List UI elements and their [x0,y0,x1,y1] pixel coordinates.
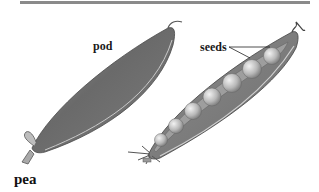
seeds-label: seeds [200,41,227,53]
seed [243,60,262,79]
seed [223,74,242,93]
seed [155,134,168,147]
figure-caption: pea [14,172,37,187]
seed [185,103,202,120]
pea-illustration [0,0,319,192]
pod-label: pod [93,40,112,52]
seed [264,48,281,65]
seed [203,88,221,106]
seed [169,119,184,134]
